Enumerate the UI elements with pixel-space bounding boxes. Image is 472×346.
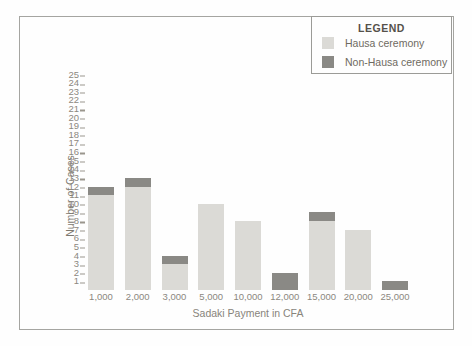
y-tick-mark xyxy=(80,205,85,206)
bar-25000 xyxy=(382,281,408,290)
segment-non-hausa xyxy=(88,187,114,196)
segment-hausa xyxy=(309,221,335,290)
y-tick-6: 6 xyxy=(56,233,85,242)
y-tick-mark xyxy=(80,136,85,137)
legend-item-label: Non-Hausa ceremony xyxy=(345,56,447,68)
segment-hausa xyxy=(88,195,114,290)
y-tick-2: 2 xyxy=(56,267,85,276)
y-tick-mark xyxy=(80,265,85,266)
legend-title: LEGEND xyxy=(312,22,451,34)
segment-hausa xyxy=(345,230,371,290)
segment-non-hausa xyxy=(382,281,408,290)
y-tick-mark xyxy=(80,110,85,111)
segment-hausa xyxy=(125,187,151,290)
y-tick-mark xyxy=(80,231,85,232)
segment-non-hausa xyxy=(162,256,188,265)
bar-12000 xyxy=(272,273,298,290)
segment-non-hausa xyxy=(272,273,298,290)
x-tick-label-25000: 25,000 xyxy=(373,291,417,302)
legend-item-hausa: Hausa ceremony xyxy=(322,37,424,49)
y-tick-mark xyxy=(80,239,85,240)
y-tick-mark xyxy=(80,93,85,94)
y-tick-4: 4 xyxy=(56,250,85,259)
bar-10000 xyxy=(235,221,261,290)
y-tick-mark xyxy=(80,162,85,163)
bar-15000 xyxy=(309,212,335,290)
y-tick-mark xyxy=(80,75,85,76)
y-tick-mark xyxy=(80,196,85,197)
y-tick-label: 25 xyxy=(68,69,79,78)
y-tick-mark xyxy=(80,248,85,249)
y-tick-8: 8 xyxy=(56,216,85,225)
legend-item-label: Hausa ceremony xyxy=(345,37,424,49)
segment-non-hausa xyxy=(309,212,335,221)
y-tick-mark xyxy=(80,213,85,214)
y-tick-mark xyxy=(80,179,85,180)
y-tick-mark xyxy=(80,222,85,223)
bar-2000 xyxy=(125,178,151,290)
y-tick-mark xyxy=(80,187,85,188)
y-tick-mark xyxy=(80,256,85,257)
y-tick-25: 25 xyxy=(56,69,85,78)
bar-1000 xyxy=(88,187,114,290)
legend-item-non-hausa: Non-Hausa ceremony xyxy=(322,56,447,68)
x-axis-title: Sadaki Payment in CFA xyxy=(88,307,408,319)
y-tick-7: 7 xyxy=(56,224,85,233)
y-tick-mark xyxy=(80,282,85,283)
y-tick-5: 5 xyxy=(56,241,85,250)
segment-hausa xyxy=(235,221,261,290)
y-tick-1: 1 xyxy=(56,276,85,285)
chart-figure: Number of Cases 123456789101112131415161… xyxy=(0,0,472,346)
y-tick-mark xyxy=(80,84,85,85)
y-tick-mark xyxy=(80,144,85,145)
y-tick-mark xyxy=(80,274,85,275)
y-tick-mark xyxy=(80,119,85,120)
legend-swatch-icon xyxy=(322,37,334,49)
y-tick-mark xyxy=(80,153,85,154)
y-tick-mark xyxy=(80,101,85,102)
bar-5000 xyxy=(198,204,224,290)
bar-3000 xyxy=(162,256,188,290)
segment-hausa xyxy=(162,264,188,290)
y-tick-mark xyxy=(80,127,85,128)
segment-non-hausa xyxy=(125,178,151,187)
bar-20000 xyxy=(345,230,371,290)
legend-box: LEGEND Hausa ceremonyNon-Hausa ceremony xyxy=(311,16,452,74)
y-tick-3: 3 xyxy=(56,259,85,268)
segment-hausa xyxy=(198,204,224,290)
y-tick-mark xyxy=(80,170,85,171)
legend-swatch-icon xyxy=(322,56,334,68)
